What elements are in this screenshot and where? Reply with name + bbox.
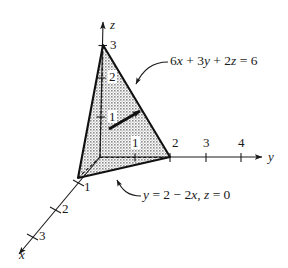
- trace-eq-body: = 2 − 2: [149, 187, 191, 202]
- z-axis-name: z: [110, 18, 115, 31]
- y-tick-label-2: 2: [172, 136, 179, 149]
- x-axis: [19, 157, 100, 254]
- y-tick-label-1: 1: [131, 136, 140, 149]
- plane-equation-leader: [136, 62, 168, 84]
- y-tick-label-4: 4: [238, 136, 245, 149]
- z-tick-label-2: 2: [108, 70, 117, 83]
- plane-eq-plus-2: +: [210, 53, 224, 68]
- y-axis-name: y: [268, 150, 274, 163]
- plane-equation-label: 6x + 3y + 2z = 6: [170, 54, 257, 68]
- plane-eq-coef-b: 3: [197, 53, 204, 68]
- x-tick-label-2: 2: [62, 202, 69, 215]
- x-tick-label-1: 1: [84, 180, 91, 193]
- z-tick-label-3: 3: [110, 38, 117, 51]
- trace-eq-comma: ,: [197, 187, 204, 202]
- x-tick-label-3: 3: [39, 229, 46, 242]
- plane-eq-coef-c: 2: [224, 53, 231, 68]
- trace-equation-leader: [117, 180, 141, 196]
- trace-equation-label: y = 2 − 2x, z = 0: [143, 188, 230, 202]
- x-axis-name: x: [19, 248, 25, 261]
- z-tick-label-1: 1: [108, 110, 117, 123]
- plane-eq-plus-1: +: [183, 53, 197, 68]
- plane-eq-equals: = 6: [236, 53, 257, 68]
- figure-canvas: 3 2 1 z 1 2 3 4 y 1 2 3 x 6x + 3y + 2z =…: [0, 0, 288, 268]
- trace-eq-zero: = 0: [209, 187, 230, 202]
- y-tick-label-3: 3: [203, 136, 210, 149]
- plane-eq-coef-a: 6: [170, 53, 177, 68]
